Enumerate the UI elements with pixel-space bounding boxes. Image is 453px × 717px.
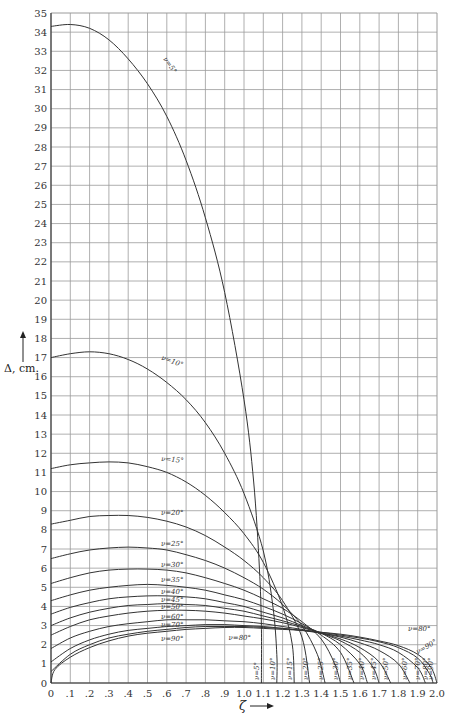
curve-label-bottom: ν=25° — [317, 657, 325, 680]
y-tick-label: 3 — [41, 620, 47, 631]
x-tick-label: .9 — [220, 688, 230, 699]
y-tick-label: 21 — [34, 276, 47, 287]
curve-label: ν=80° — [229, 634, 252, 642]
y-tick-label: 15 — [34, 390, 47, 401]
x-tick-label: 1.2 — [275, 688, 291, 699]
y-tick-label: 20 — [34, 295, 47, 306]
x-tick-label: 0 — [48, 688, 54, 699]
y-tick-label: 28 — [34, 142, 47, 153]
x-tick-label: 1.6 — [352, 688, 368, 699]
y-tick-label: 7 — [41, 544, 47, 555]
x-axis-label: ζ — [239, 698, 247, 713]
axis-ticks: 0.1.2.3.4.5.6.7.8.91.01.11.21.31.41.51.6… — [34, 8, 445, 700]
y-tick-label: 9 — [41, 505, 47, 516]
y-axis-arrowhead — [20, 331, 26, 338]
y-tick-label: 12 — [34, 448, 47, 459]
curve-label-bottom: ν=15° — [286, 657, 294, 680]
y-tick-label: 22 — [34, 256, 47, 267]
curve-label: ν=80° — [408, 625, 431, 633]
x-tick-label: 2.0 — [429, 688, 445, 699]
curve-label: ν=15° — [161, 455, 184, 465]
y-tick-label: 8 — [41, 524, 47, 535]
x-tick-label: .1 — [66, 688, 76, 699]
curve-label-bottom: ν=90° — [427, 657, 435, 680]
y-tick-label: 32 — [34, 65, 47, 76]
y-tick-label: 31 — [34, 84, 47, 95]
curve-label-bottom: ν=45° — [370, 657, 378, 680]
curve-label-bottom: ν=20° — [302, 657, 310, 680]
y-tick-label: 23 — [34, 237, 47, 248]
curve-label: ν=70° — [161, 621, 184, 629]
x-tick-label: .8 — [201, 688, 211, 699]
y-tick-label: 35 — [34, 8, 47, 19]
y-tick-label: 26 — [34, 180, 47, 191]
y-tick-label: 29 — [34, 122, 47, 133]
curve-label: ν=50° — [161, 603, 184, 611]
y-tick-label: 24 — [34, 218, 47, 229]
y-tick-label: 10 — [34, 486, 47, 497]
y-tick-label: 13 — [34, 429, 47, 440]
curve-label-bottom: ν=50° — [382, 657, 390, 680]
curve-label: ν=90° — [415, 638, 439, 656]
x-tick-label: .5 — [143, 688, 153, 699]
x-tick-label: .4 — [123, 688, 133, 699]
y-axis-label: Δ, cm. — [4, 362, 39, 375]
y-tick-label: 6 — [41, 563, 47, 574]
y-tick-label: 25 — [34, 199, 47, 210]
x-tick-label: 1.9 — [410, 688, 426, 699]
y-tick-label: 0 — [41, 678, 47, 689]
y-tick-label: 1 — [41, 658, 47, 669]
x-tick-label: .7 — [181, 688, 191, 699]
grid — [51, 13, 437, 683]
x-tick-label: 1.8 — [390, 688, 406, 699]
y-tick-label: 11 — [34, 467, 47, 478]
curve-label: ν=35° — [161, 576, 184, 584]
y-tick-label: 18 — [34, 333, 47, 344]
y-tick-label: 27 — [34, 161, 47, 172]
curve-label: ν=90° — [161, 635, 184, 643]
x-tick-label: 1.4 — [313, 688, 329, 699]
curve-label-bottom: ν=40° — [358, 657, 366, 680]
curve-label-bottom: ν=60° — [401, 657, 409, 680]
y-tick-label: 14 — [34, 410, 47, 421]
curve-label-bottom: ν=30° — [332, 657, 340, 680]
x-tick-label: 1.7 — [371, 688, 387, 699]
y-tick-label: 34 — [34, 27, 47, 38]
curve — [51, 620, 410, 683]
y-tick-label: 19 — [34, 314, 47, 325]
y-tick-label: 5 — [41, 582, 47, 593]
curve-label-bottom: ν=10° — [269, 657, 277, 680]
curve-label-bottom: ν=5° — [253, 662, 261, 680]
x-tick-label: .2 — [85, 688, 95, 699]
y-tick-label: 4 — [41, 601, 47, 612]
curve-label: ν=10° — [160, 354, 184, 369]
y-tick-label: 2 — [41, 639, 47, 650]
x-tick-label: .3 — [104, 688, 114, 699]
y-tick-label: 33 — [34, 46, 47, 57]
curve-label: ν=25° — [161, 540, 184, 548]
x-tick-label: .6 — [162, 688, 172, 699]
curve-label: ν=30° — [161, 561, 184, 569]
y-tick-label: 30 — [34, 103, 47, 114]
curve-labels: ν=5°ν=10°ν=15°ν=20°ν=25°ν=30°ν=35°ν=40°ν… — [160, 56, 438, 680]
curve-label: ν=20° — [161, 509, 184, 517]
x-tick-label: 1.5 — [333, 688, 349, 699]
x-tick-label: 1.1 — [255, 688, 271, 699]
chart: ν=5°ν=10°ν=15°ν=20°ν=25°ν=30°ν=35°ν=40°ν… — [0, 0, 453, 717]
curve-label-bottom: ν=35° — [346, 657, 354, 680]
x-axis-arrowhead — [267, 703, 274, 709]
curve-label: ν=5° — [161, 56, 178, 75]
x-tick-label: 1.3 — [294, 688, 310, 699]
